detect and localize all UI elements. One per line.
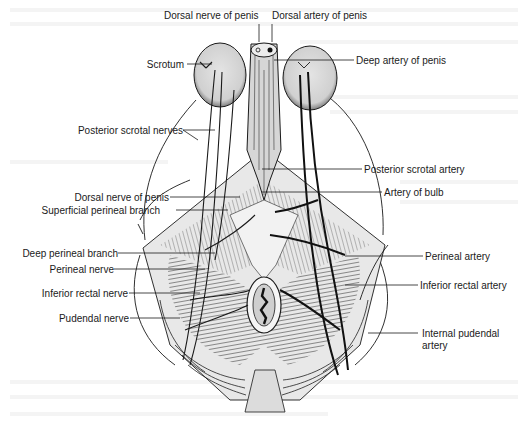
label-inferior-rectal-nerve: Inferior rectal nerve — [42, 288, 128, 299]
label-superficial-perineal-branch: Superficial perineal branch — [42, 205, 160, 216]
label-scrotum: Scrotum — [147, 59, 184, 70]
label-dorsal-artery-of-penis: Dorsal artery of penis — [272, 10, 367, 21]
label-inferior-rectal-artery: Inferior rectal artery — [420, 280, 507, 291]
label-pudendal-nerve: Pudendal nerve — [59, 313, 129, 324]
scrotum-left — [194, 43, 246, 107]
label-deep-artery-of-penis: Deep artery of penis — [356, 55, 446, 66]
label-perineal-artery: Perineal artery — [425, 251, 490, 262]
label-internal-pudendal-artery-line1: Internal pudendal — [422, 328, 499, 339]
label-internal-pudendal-artery-line2: artery — [422, 340, 448, 351]
label-posterior-scrotal-artery: Posterior scrotal artery — [364, 164, 465, 175]
label-dorsal-nerve-of-penis-2: Dorsal nerve of penis — [75, 192, 170, 203]
label-perineal-nerve: Perineal nerve — [50, 264, 114, 275]
label-dorsal-nerve-of-penis: Dorsal nerve of penis — [164, 10, 259, 21]
label-artery-of-bulb: Artery of bulb — [384, 187, 443, 198]
label-posterior-scrotal-nerves: Posterior scrotal nerves — [78, 125, 183, 136]
anatomy-figure: Dorsal nerve of penis Dorsal artery of p… — [0, 0, 528, 423]
label-deep-perineal-branch: Deep perineal branch — [22, 248, 118, 259]
